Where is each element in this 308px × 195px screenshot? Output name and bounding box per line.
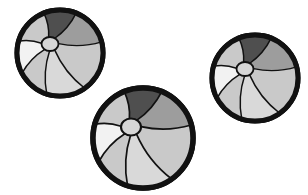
ball-top-left-hub (42, 37, 59, 51)
ball-right-hub (237, 62, 254, 76)
beach-ball-illustration (0, 0, 308, 195)
ball-top-left (17, 10, 103, 96)
ball-center-bottom-hub (121, 119, 141, 136)
ball-center-bottom (93, 88, 193, 188)
beach-ball-canvas (0, 0, 308, 195)
ball-right (212, 35, 298, 121)
